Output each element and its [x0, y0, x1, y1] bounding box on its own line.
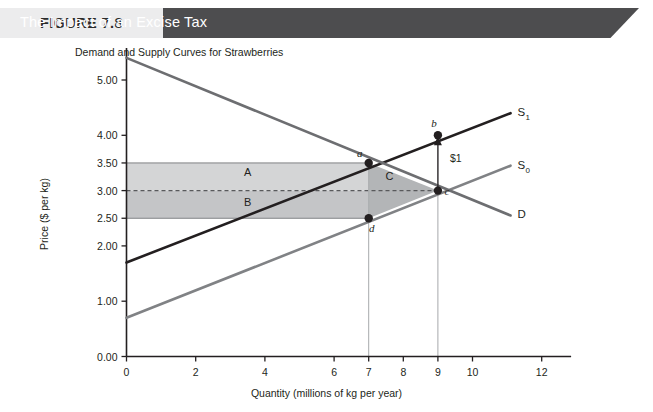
x-tick-label-5: 8 — [400, 366, 406, 378]
y-tick-label-6: 4.00 — [97, 129, 118, 141]
point-label-c: c — [444, 185, 449, 197]
y-tick-label-7: 5.00 — [97, 74, 118, 86]
y-tick-label-2: 2.00 — [97, 240, 118, 252]
region-label-B: B — [244, 196, 251, 208]
excise-tax-chart: ABC S1S0D $1 abcd 0.001.002.002.503.003.… — [0, 0, 653, 412]
point-label-a: a — [357, 147, 363, 159]
x-tick-label-7: 10 — [467, 366, 479, 378]
point-label-b: b — [431, 117, 437, 129]
y-tick-label-5: 3.50 — [97, 157, 118, 169]
x-tick-label-0: 0 — [124, 366, 130, 378]
tax-amount-label: $1 — [450, 152, 462, 164]
x-tick-label-3: 6 — [331, 366, 337, 378]
data-point-a — [365, 159, 373, 167]
data-point-b — [434, 131, 442, 139]
data-point-c — [434, 186, 442, 194]
curve-label-D: D — [518, 208, 526, 220]
x-tick-label-6: 9 — [435, 366, 441, 378]
curve-sublabel-S0: 0 — [526, 166, 531, 175]
region-label-C: C — [385, 170, 393, 182]
data-point-d — [365, 214, 373, 222]
x-tick-label-4: 7 — [366, 366, 372, 378]
curve-label-S0: S — [518, 159, 526, 171]
curve-sublabel-S1: 1 — [526, 113, 531, 122]
y-tick-label-1: 1.00 — [97, 295, 118, 307]
point-label-d: d — [369, 222, 375, 234]
y-tick-label-3: 2.50 — [97, 212, 118, 224]
annotations-layer: $1 — [434, 136, 462, 190]
x-tick-label-8: 12 — [536, 366, 548, 378]
x-tick-label-1: 2 — [193, 366, 199, 378]
x-tick-label-2: 4 — [262, 366, 268, 378]
y-tick-label-0: 0.00 — [97, 351, 118, 363]
tick-labels-layer: 0.001.002.002.503.003.504.005.0002467891… — [97, 74, 548, 378]
y-tick-label-4: 3.00 — [97, 185, 118, 197]
region-label-A: A — [244, 166, 252, 178]
curve-label-S1: S — [518, 106, 526, 118]
